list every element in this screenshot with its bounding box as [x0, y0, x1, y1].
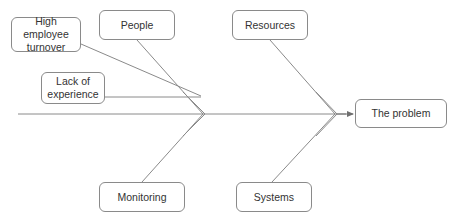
- cause-label-lack-of-experience: Lack of experience: [47, 75, 98, 101]
- cause-box-monitoring[interactable]: Monitoring: [99, 182, 185, 212]
- cause-label-high-employee-turnover: High employee turnover: [16, 15, 76, 54]
- connector-people: [137, 40, 203, 114]
- connector-systems: [272, 114, 335, 182]
- effect-label-the-problem: The problem: [372, 107, 431, 120]
- connector-resources: [270, 40, 335, 114]
- cause-label-people: People: [121, 19, 154, 32]
- cause-box-high-employee-turnover[interactable]: High employee turnover: [11, 17, 81, 52]
- effect-box-the-problem[interactable]: The problem: [355, 99, 447, 128]
- connector-monitoring: [142, 114, 203, 182]
- cause-label-systems: Systems: [254, 191, 294, 204]
- cause-box-systems[interactable]: Systems: [236, 182, 312, 212]
- cause-box-people[interactable]: People: [99, 10, 175, 40]
- cause-label-monitoring: Monitoring: [117, 191, 166, 204]
- fishbone-diagram: High employee turnover People Lack of ex…: [0, 0, 459, 221]
- cause-label-resources: Resources: [245, 19, 295, 32]
- cause-box-resources[interactable]: Resources: [232, 10, 308, 40]
- cause-box-lack-of-experience[interactable]: Lack of experience: [41, 72, 105, 104]
